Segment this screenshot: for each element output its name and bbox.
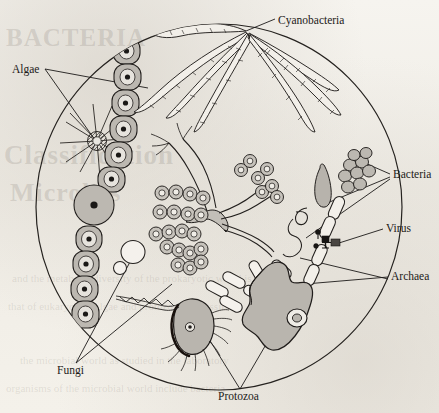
label-archaea: Archaea	[391, 270, 429, 282]
label-cyanobacteria: Cyanobacteria	[278, 14, 344, 26]
microbiology-figure	[0, 0, 439, 413]
label-virus: Virus	[386, 222, 411, 234]
label-bacteria: Bacteria	[393, 168, 431, 180]
label-algae: Algae	[12, 63, 39, 75]
figure-page: BACTERIA Classification Microbes and the…	[0, 0, 439, 413]
yeast-budding	[114, 241, 146, 275]
protozoa-amoeba	[242, 262, 312, 350]
protozoa-flagellate	[116, 296, 232, 371]
label-protozoa: Protozoa	[218, 390, 259, 402]
bacteria-cocci	[339, 148, 376, 194]
bacteria-rod	[315, 164, 332, 207]
label-fungi: Fungi	[57, 364, 84, 376]
algae-filament	[71, 38, 141, 328]
algae-large-cell	[74, 185, 114, 225]
cyanobacteria-filaments	[134, 23, 341, 132]
bacteria-spirillum	[283, 208, 307, 257]
